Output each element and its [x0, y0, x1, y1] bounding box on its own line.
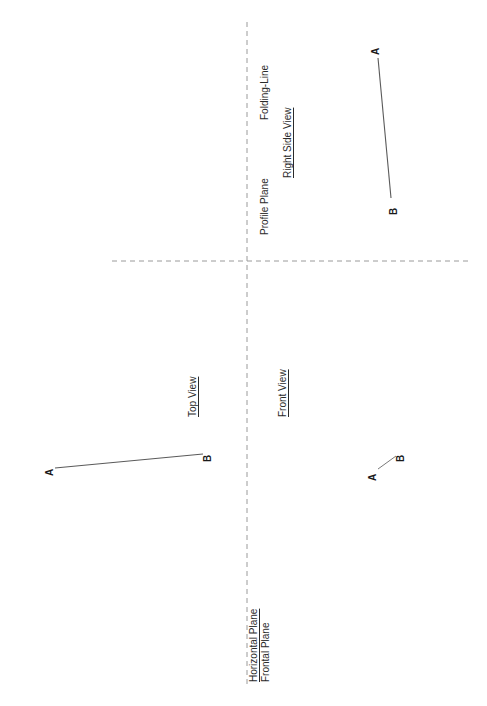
front-view-point-b-label: B: [396, 455, 406, 462]
top-view-line-ab: [55, 454, 203, 468]
right-side-view-point-b-label: B: [389, 208, 399, 215]
top-view-point-a-label: A: [45, 469, 55, 476]
horizontal-plane-label: Horizontal Plane: [249, 609, 259, 682]
diagram-canvas: [0, 0, 487, 706]
top-view-label: Top View: [188, 377, 198, 417]
right-side-view-point-a-label: A: [371, 48, 381, 55]
frontal-plane-label: Frontal Plane: [261, 623, 271, 682]
right-side-view-line-ab: [378, 58, 391, 198]
right-side-view-label: Right Side View: [283, 108, 293, 178]
top-view-point-b-label: B: [203, 455, 213, 462]
orthographic-projection-diagram: Folding-Line Profile Plane Right Side Vi…: [0, 0, 487, 706]
front-view-label: Front View: [278, 369, 288, 417]
front-view-line-ab: [378, 456, 396, 469]
front-view-point-a-label: A: [368, 474, 378, 481]
folding-line-label: Folding-Line: [260, 65, 270, 120]
profile-plane-label: Profile Plane: [260, 178, 270, 235]
